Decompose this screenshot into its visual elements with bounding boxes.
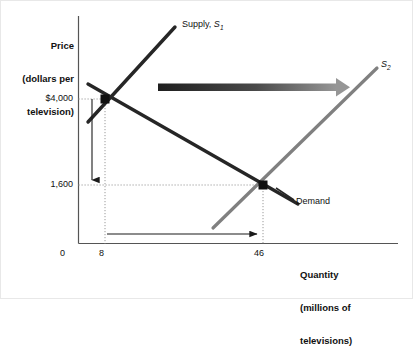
- demand-label: Demand: [296, 196, 330, 207]
- x-tick-label-0: 0: [60, 248, 65, 259]
- x-tick-label-46: 46: [254, 248, 264, 259]
- equilibrium-point-initial: [101, 95, 110, 104]
- supply-s2-label-subscript: 2: [387, 64, 391, 71]
- x-axis-title-line1: Quantity: [300, 269, 410, 280]
- y-axis-title: Price (dollars per television): [4, 18, 74, 139]
- y-axis-title-line2: (dollars per: [4, 73, 74, 84]
- x-axis-title: Quantity (millions of televisions): [300, 247, 410, 350]
- x-axis-title-line2: (millions of: [300, 302, 410, 313]
- y-tick-label-1600: 1,600: [33, 179, 73, 190]
- supply-s2-label: S2: [381, 59, 391, 73]
- y-axis-title-line1: Price: [4, 40, 74, 51]
- equilibrium-point-new: [259, 181, 268, 190]
- supply-s1-label: Supply, S1: [182, 19, 224, 33]
- y-axis-title-line3: television): [4, 106, 74, 117]
- y-tick-label-4000: $4,000: [33, 93, 73, 104]
- x-tick-label-8: 8: [99, 248, 104, 259]
- supply-s1-label-subscript: 1: [220, 24, 224, 31]
- x-axis-title-line3: televisions): [300, 335, 410, 346]
- supply-s1-label-text: Supply,: [182, 19, 214, 29]
